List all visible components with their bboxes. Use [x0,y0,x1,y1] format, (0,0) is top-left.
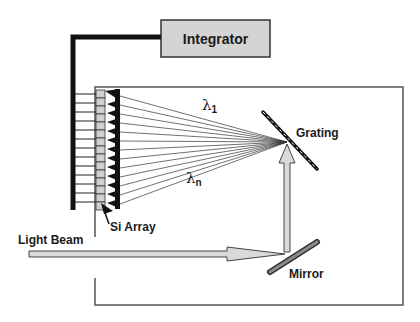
lambda-1-label: λ1 [202,96,218,115]
lambda-n-label: λn [186,169,202,188]
si-array-pixels [96,90,105,210]
grating-label: Grating [296,126,339,140]
light-beam-arrow [29,247,285,261]
spectrometer-diagram: Integrator [0,0,420,322]
si-array-label: Si Array [110,220,156,234]
light-beam-label: Light Beam [18,233,83,247]
detector-wires [75,94,96,202]
detector-arrowheads [105,89,120,209]
reflected-beam-arrow [279,144,295,252]
integrator-label: Integrator [183,31,249,47]
integrator-box: Integrator [161,20,270,57]
mirror-label: Mirror [289,267,324,281]
